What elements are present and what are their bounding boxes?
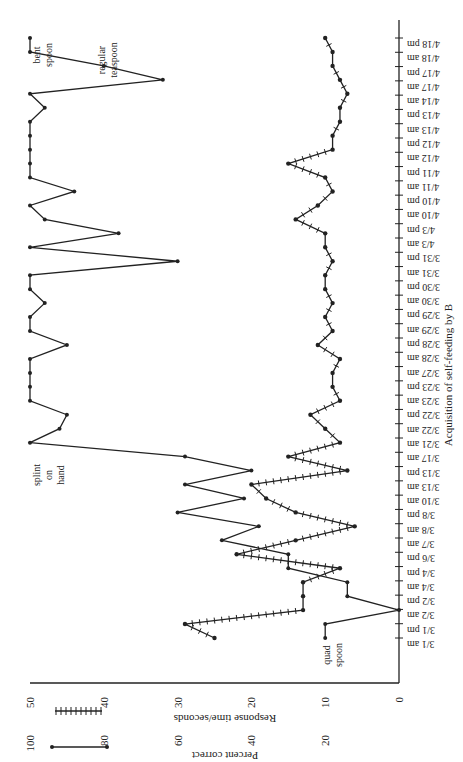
series-percent-correct xyxy=(28,36,401,640)
hatch-mark xyxy=(310,534,311,540)
response-tick-label: 30 xyxy=(172,697,184,709)
hatch-mark xyxy=(302,536,303,542)
percent-axis-title: Percent correct xyxy=(192,750,258,762)
hatch-mark xyxy=(288,609,289,615)
response-point xyxy=(293,538,297,542)
response-tick-label: 20 xyxy=(245,697,257,709)
legend-percent-dot xyxy=(50,745,54,749)
percent-point xyxy=(28,120,32,124)
category-label: 3/28 pm xyxy=(407,339,440,350)
response-point xyxy=(338,357,342,361)
hatch-mark xyxy=(332,470,333,476)
category-label: 3/2 am xyxy=(407,610,435,621)
annotation-label: quad xyxy=(321,645,332,664)
hatch-mark xyxy=(258,612,259,618)
annotation-label: spoon xyxy=(333,643,344,667)
percent-point xyxy=(28,399,32,403)
category-label: 3/30 am xyxy=(407,296,440,307)
series-response-time xyxy=(183,36,357,640)
response-point xyxy=(330,329,334,333)
hatch-mark xyxy=(325,462,326,468)
response-tick-label: 10 xyxy=(319,697,331,709)
hatch-mark xyxy=(325,471,326,477)
hatch-mark xyxy=(281,610,282,616)
percent-point xyxy=(28,176,32,180)
hatch-mark xyxy=(258,554,259,560)
category-label: 4/12 am xyxy=(407,153,440,164)
response-point xyxy=(338,106,342,110)
hatch-mark xyxy=(347,522,348,528)
response-point xyxy=(301,594,305,598)
response-point xyxy=(323,231,327,235)
response-point xyxy=(330,301,334,305)
percent-point xyxy=(117,231,121,235)
percent-point xyxy=(28,148,32,152)
percent-point xyxy=(58,427,62,431)
category-label: 3/8 am xyxy=(407,525,435,536)
percent-point xyxy=(286,566,290,570)
percent-point xyxy=(220,538,224,542)
percent-point xyxy=(43,217,47,221)
category-label: 3/31 pm xyxy=(407,253,440,264)
percent-point xyxy=(28,441,32,445)
response-point xyxy=(345,92,349,96)
response-point xyxy=(338,78,342,82)
line-chart: 3/1 am3/1 pm3/2 am3/2 pm3/4 am3/4 pm3/6 … xyxy=(0,0,463,762)
hatch-mark xyxy=(222,617,223,623)
category-label: 3/10 am xyxy=(407,496,440,507)
category-label: 4/11 am xyxy=(407,182,439,193)
hatch-mark xyxy=(280,477,281,483)
category-label: 3/22 am xyxy=(407,425,440,436)
response-tick-label: 0 xyxy=(393,697,405,703)
hatch-mark xyxy=(207,618,208,624)
category-label: 3/29 am xyxy=(407,325,440,336)
hatch-mark xyxy=(302,511,303,517)
category-label: 3/30 pm xyxy=(407,282,440,293)
hatch-mark xyxy=(332,464,333,470)
percent-point xyxy=(28,92,32,96)
response-point xyxy=(323,315,327,319)
percent-point xyxy=(323,636,327,640)
percent-tick-label: 60 xyxy=(172,735,184,747)
response-line xyxy=(185,38,355,638)
response-point xyxy=(308,413,312,417)
category-label: 4/17 pm xyxy=(407,68,440,79)
response-point xyxy=(286,161,290,165)
hatch-mark xyxy=(332,529,333,535)
response-axis-title: Response time/seconds xyxy=(174,713,276,725)
response-tick-label: 40 xyxy=(98,697,110,709)
category-label: 4/11 pm xyxy=(407,168,440,179)
response-point xyxy=(330,147,334,151)
percent-point xyxy=(65,343,69,347)
hatch-mark xyxy=(281,557,282,563)
response-point xyxy=(316,343,320,347)
response-point xyxy=(234,552,238,556)
hatch-mark xyxy=(288,476,289,482)
category-label: 3/31 am xyxy=(407,268,440,279)
percent-point xyxy=(28,36,32,40)
hatch-mark xyxy=(273,543,274,549)
category-label: 4/18 am xyxy=(407,53,440,64)
hatch-mark xyxy=(214,618,215,624)
hatch-mark xyxy=(317,461,318,467)
response-point xyxy=(286,454,290,458)
response-point xyxy=(323,36,327,40)
percent-point xyxy=(249,469,253,473)
category-label: 3/23 am xyxy=(407,396,440,407)
percent-point xyxy=(323,622,327,626)
percent-point xyxy=(397,608,401,612)
category-label: 4/10 am xyxy=(407,210,440,221)
annotation-label: splint xyxy=(31,464,42,486)
response-point xyxy=(249,482,253,486)
percent-point xyxy=(28,287,32,291)
percent-point xyxy=(286,552,290,556)
percent-point xyxy=(28,357,32,361)
percent-point xyxy=(72,189,76,193)
hatch-mark xyxy=(251,613,252,619)
response-point xyxy=(293,217,297,221)
hatch-mark xyxy=(273,556,274,562)
category-label: 3/29 pm xyxy=(407,310,440,321)
category-label: 3/21 am xyxy=(407,439,440,450)
response-point xyxy=(323,287,327,291)
category-label: 3/27 am xyxy=(407,368,440,379)
